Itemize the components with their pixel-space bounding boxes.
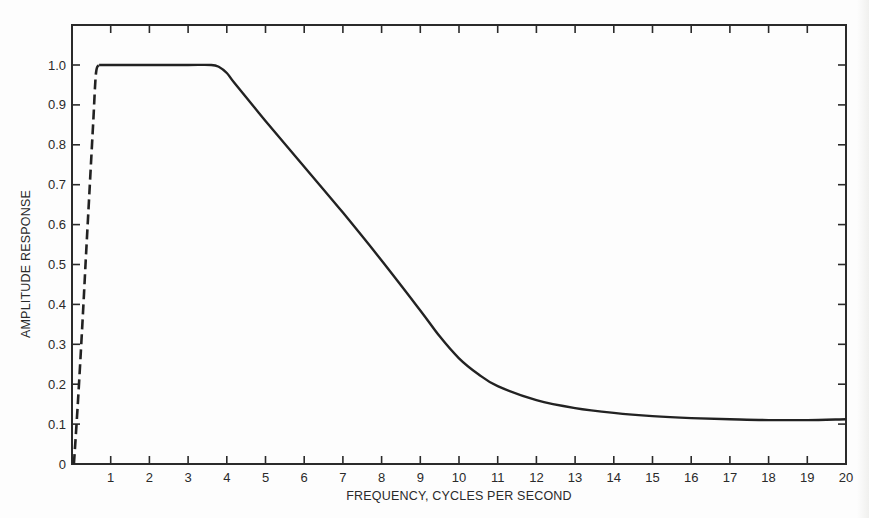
amplitude-response-chart: 1234567891011121314151617181920 00.10.20… [0,0,869,518]
y-tick-label: 0.3 [48,337,66,352]
x-tick-label: 11 [491,470,505,485]
amplitude-response-line [99,65,846,420]
x-tick-label: 1 [107,470,114,485]
x-tick-label: 12 [529,470,543,485]
page-edge-shadow [857,0,869,518]
y-tick-label: 0 [59,457,66,472]
x-tick-label: 16 [684,470,698,485]
x-tick-label: 13 [568,470,582,485]
x-tick-label: 19 [800,470,814,485]
y-tick-label: 0.9 [48,97,66,112]
x-tick-label: 18 [761,470,775,485]
x-axis-title: FREQUENCY, CYCLES PER SECOND [346,489,572,503]
x-tick-label: 17 [723,470,737,485]
x-tick-label: 14 [607,470,621,485]
y-axis-ticks: 00.10.20.30.40.50.60.70.80.91.0 [48,58,846,472]
y-tick-label: 0.6 [48,217,66,232]
y-axis-title: AMPLITUDE RESPONSE [19,190,33,338]
x-tick-label: 10 [452,470,466,485]
plot-frame [72,25,846,464]
x-tick-label: 2 [146,470,153,485]
y-tick-label: 0.5 [48,257,66,272]
x-tick-label: 3 [184,470,191,485]
y-tick-label: 0.1 [48,417,66,432]
y-tick-label: 0.7 [48,177,66,192]
x-tick-label: 6 [301,470,308,485]
x-tick-label: 20 [839,470,853,485]
x-tick-label: 5 [262,470,269,485]
x-tick-label: 4 [223,470,230,485]
y-tick-label: 0.8 [48,137,66,152]
y-tick-label: 0.2 [48,377,66,392]
x-tick-label: 15 [645,470,659,485]
y-tick-label: 0.4 [48,297,66,312]
x-tick-label: 9 [417,470,424,485]
x-tick-label: 8 [378,470,385,485]
x-tick-label: 7 [339,470,346,485]
x-axis-ticks: 1234567891011121314151617181920 [107,25,853,485]
y-tick-label: 1.0 [48,58,66,73]
